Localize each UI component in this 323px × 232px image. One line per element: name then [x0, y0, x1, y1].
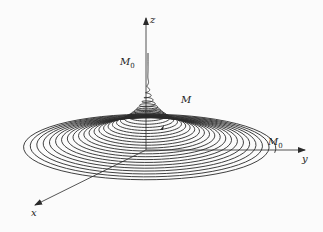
conical-helix-curve: [24, 53, 276, 180]
x-axis-label: x: [31, 208, 37, 218]
x-axis: [35, 150, 146, 205]
conical-spiral-diagram: [0, 0, 323, 232]
point-m0-end-label: M0: [268, 137, 283, 150]
z-axis-label: z: [150, 15, 155, 25]
y-axis-label: y: [302, 154, 308, 164]
coordinate-axes: [35, 18, 305, 205]
point-m0-top-label: M0: [120, 57, 135, 70]
point-m-label: M: [181, 95, 191, 105]
